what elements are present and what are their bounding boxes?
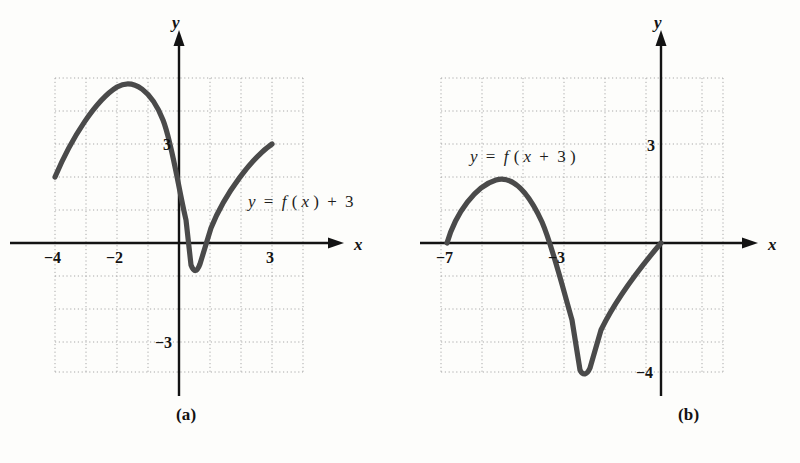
x-tick-label-a-1: −2 <box>106 249 123 266</box>
axis-x-label-a: x <box>353 235 363 254</box>
eq-b-op: + <box>539 147 549 166</box>
eq-a-eq: = <box>264 192 274 211</box>
eq-b-close: ) <box>570 147 576 166</box>
grid-b <box>441 78 723 372</box>
chart-a: y x −4 −2 3 3 −3 y = f ( x ) + 3 <box>0 0 400 400</box>
eq-a-op: + <box>327 192 337 211</box>
panel-caption-b: (b) <box>678 405 699 425</box>
curve-b <box>447 179 661 374</box>
panel-b: y x −7 −3 3 −4 y = f ( x + 3 ) (b) <box>400 0 800 400</box>
eq-b-var: x <box>523 147 532 166</box>
axis-x-label-b: x <box>767 235 777 254</box>
y-tick-label-b-0: 3 <box>647 137 655 154</box>
y-tick-label-b-1: −4 <box>636 364 653 381</box>
equation-label-a: y = f ( x ) + 3 <box>246 192 354 211</box>
eq-b-shift: 3 <box>557 147 566 166</box>
y-tick-label-a-0: 3 <box>163 136 171 153</box>
eq-b-open: ( <box>514 147 520 166</box>
eq-a-shift: 3 <box>345 192 354 211</box>
y-axis-b <box>656 30 667 396</box>
eq-b-lhs: y <box>468 147 478 166</box>
eq-a-lhs: y <box>246 192 256 211</box>
axis-y-label-a: y <box>170 13 180 32</box>
eq-a-close: ) <box>313 192 319 211</box>
y-tick-label-a-1: −3 <box>155 334 172 351</box>
eq-b-eq: = <box>486 147 496 166</box>
eq-b-fn: f <box>504 147 511 166</box>
panel-a: y x −4 −2 3 3 −3 y = f ( x ) + 3 (a) <box>0 0 400 400</box>
x-axis-b <box>420 238 758 249</box>
eq-a-fn: f <box>282 192 289 211</box>
x-tick-label-a-0: −4 <box>44 249 61 266</box>
x-tick-label-a-2: 3 <box>266 249 274 266</box>
x-axis-a <box>10 238 344 249</box>
panel-caption-a: (a) <box>176 405 196 425</box>
eq-a-open: ( <box>292 192 298 211</box>
x-tick-label-b-0: −7 <box>436 249 453 266</box>
eq-a-var: x <box>301 192 310 211</box>
x-tick-label-b-1: −3 <box>548 249 565 266</box>
chart-b: y x −7 −3 3 −4 y = f ( x + 3 ) <box>400 0 800 400</box>
figure-container: y x −4 −2 3 3 −3 y = f ( x ) + 3 (a) <box>0 0 800 463</box>
equation-label-b: y = f ( x + 3 ) <box>468 147 576 166</box>
axis-y-label-b: y <box>652 13 662 32</box>
